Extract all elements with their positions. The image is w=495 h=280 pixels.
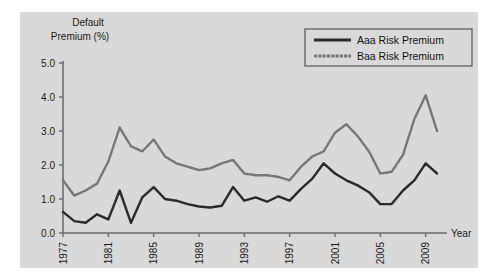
x-axis-tick-label: 1985 xyxy=(148,242,159,265)
x-axis-tick-label: 2001 xyxy=(330,242,341,265)
chart-screenshot: 0.01.02.03.04.05.0 197719811985198919931… xyxy=(0,0,495,280)
y-axis-tick-label: 1.0 xyxy=(41,194,55,205)
x-axis-title: Year xyxy=(451,228,472,239)
y-axis-title-line2: Premium (%) xyxy=(51,31,109,42)
x-axis-tick-label: 1977 xyxy=(58,242,69,265)
y-axis-tick-label: 5.0 xyxy=(41,58,55,69)
x-axis-tick-label: 1989 xyxy=(194,242,205,265)
y-axis: 0.01.02.03.04.05.0 xyxy=(41,58,63,239)
chart-svg: 0.01.02.03.04.05.0 197719811985198919931… xyxy=(0,0,495,280)
x-axis-tick-label: 1993 xyxy=(239,242,250,265)
chart-plot-area: 0.01.02.03.04.05.0 197719811985198919931… xyxy=(0,0,495,280)
chart-legend: Aaa Risk PremiumBaa Risk Premium xyxy=(305,29,472,66)
x-axis-tick-label: 2009 xyxy=(420,242,431,265)
y-axis-tick-label: 0.0 xyxy=(41,228,55,239)
x-axis-tick-label: 1997 xyxy=(284,242,295,265)
x-axis-tick-label: 1981 xyxy=(103,242,114,265)
data-series-group xyxy=(63,95,437,223)
y-axis-tick-label: 3.0 xyxy=(41,126,55,137)
y-axis-tick-label: 2.0 xyxy=(41,160,55,171)
y-axis-title-line1: Default xyxy=(72,17,104,28)
legend-label-1: Aaa Risk Premium xyxy=(357,34,444,46)
legend-label-2: Baa Risk Premium xyxy=(357,50,444,62)
x-axis-tick-label: 2005 xyxy=(375,242,386,265)
y-axis-tick-label: 4.0 xyxy=(41,92,55,103)
x-axis: 197719811985198919931997200120052009 xyxy=(58,233,447,264)
series-line-2 xyxy=(63,95,437,195)
